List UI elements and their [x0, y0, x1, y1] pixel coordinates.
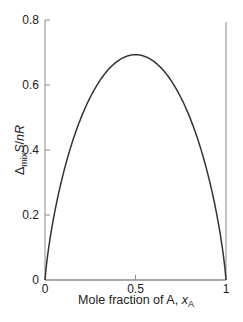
y-tick-label: 0.2 [22, 208, 39, 222]
entropy-of-mixing-chart: 00.20.40.60.8 00.51 ΔmixS/nR Mole fracti… [0, 0, 243, 322]
y-tick-label: 0 [32, 273, 39, 287]
y-tick-label: 0.6 [22, 78, 39, 92]
axes [45, 20, 226, 280]
x-tick-label: 1 [223, 282, 230, 296]
entropy-curve [45, 55, 226, 280]
y-axis-label: ΔmixS/nR [13, 125, 29, 175]
y-tick-label: 0.8 [22, 13, 39, 27]
x-tick-label: 0 [42, 282, 49, 296]
x-axis-label: Mole fraction of A, xA [78, 293, 194, 309]
